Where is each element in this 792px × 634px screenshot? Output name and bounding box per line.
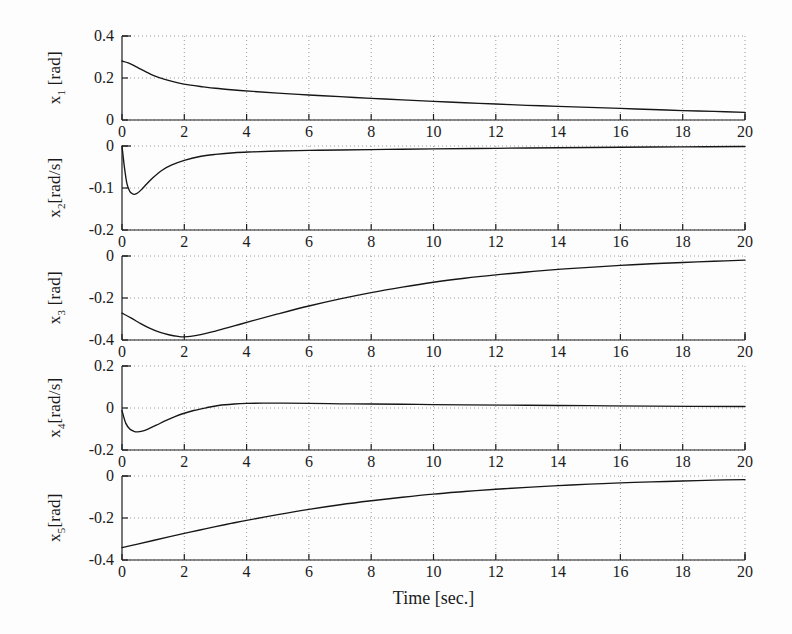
x-tick-label-x5: 10 <box>426 563 442 581</box>
y-axis-label-base-x5: x <box>45 533 64 542</box>
x-tick-label-x5: 2 <box>180 563 188 581</box>
x-tick-label-x5: 0 <box>118 563 126 581</box>
y-axis-label-subscript-x5: 5 <box>55 528 67 534</box>
plot-area-x5 <box>0 0 792 634</box>
x-tick-label-x5: 20 <box>737 563 753 581</box>
x-axis-label: Time [sec.] <box>393 588 474 609</box>
subplot-x5: 0-0.2-0.402468101214161820x5[rad] <box>0 0 792 634</box>
data-curve-x5 <box>122 480 745 548</box>
x-tick-label-x5: 18 <box>675 563 691 581</box>
y-axis-label-x5: x5[rad] <box>45 443 66 593</box>
x-tick-label-x5: 14 <box>550 563 566 581</box>
x-tick-label-x5: 6 <box>305 563 313 581</box>
x-tick-label-x5: 8 <box>367 563 375 581</box>
figure-canvas: 00.20.402468101214161820x1 [rad]0-0.1-0.… <box>0 0 792 634</box>
x-tick-label-x5: 12 <box>488 563 504 581</box>
y-axis-label-unit-x5: [rad] <box>45 493 64 527</box>
x-tick-label-x5: 16 <box>612 563 628 581</box>
x-tick-label-x5: 4 <box>243 563 251 581</box>
